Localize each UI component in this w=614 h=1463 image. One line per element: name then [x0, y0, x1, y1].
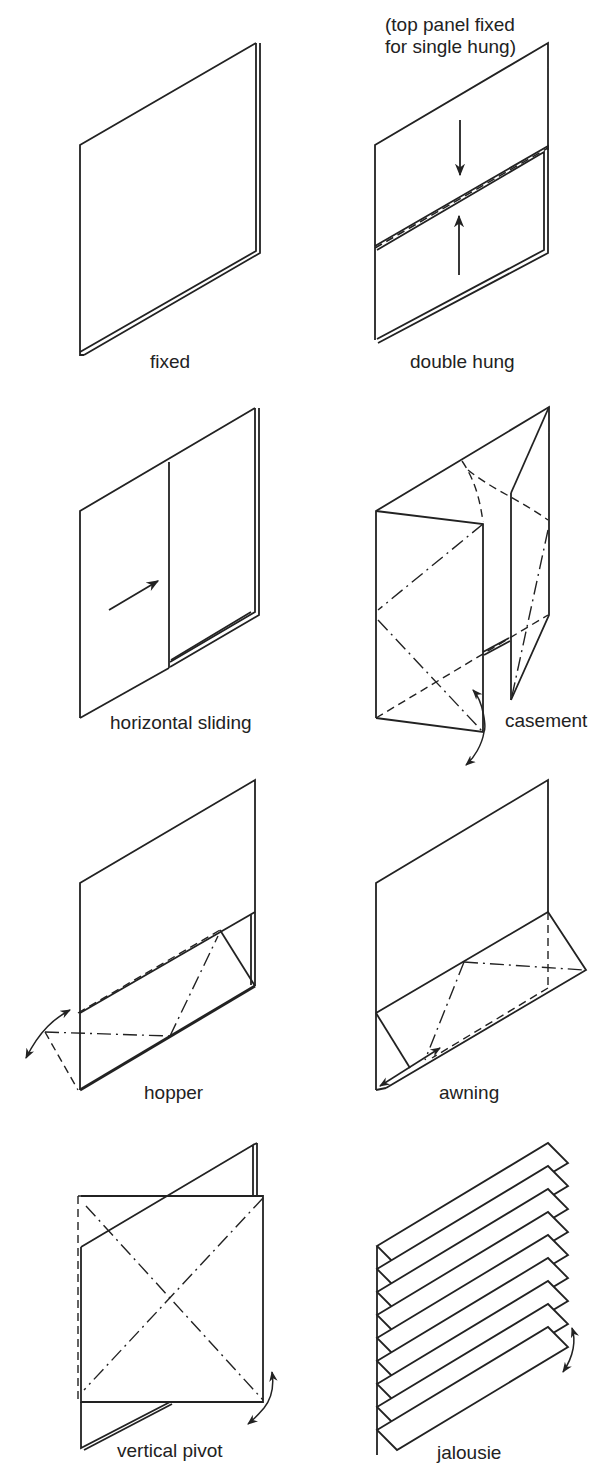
swing-arrow-icon	[248, 1372, 273, 1424]
awning-window-drawing	[376, 780, 586, 1090]
label-jalousie: jalousie	[437, 1443, 501, 1462]
label-hopper: hopper	[144, 1083, 203, 1102]
double-hung-window-drawing	[375, 43, 548, 343]
jalousie-slats	[377, 1143, 568, 1450]
label-fixed: fixed	[150, 352, 190, 371]
jalousie-window-drawing	[377, 1143, 574, 1455]
vertical-pivot-window-drawing	[78, 1143, 273, 1450]
note-line-2: for single hung)	[385, 36, 516, 58]
swing-arrow-icon	[466, 690, 485, 765]
fixed-window-drawing	[80, 43, 260, 355]
arrow-right-icon	[109, 581, 158, 610]
window-types-diagram	[0, 0, 614, 1463]
single-hung-note: (top panel fixed for single hung)	[385, 14, 516, 58]
note-line-1: (top panel fixed	[385, 14, 516, 36]
label-awning: awning	[439, 1083, 499, 1102]
label-double-hung: double hung	[410, 352, 515, 371]
swing-arrow-icon	[380, 1048, 440, 1086]
label-horizontal-sliding: horizontal sliding	[110, 713, 252, 732]
label-casement: casement	[505, 711, 587, 730]
horizontal-sliding-window-drawing	[80, 408, 259, 718]
label-vertical-pivot: vertical pivot	[117, 1441, 223, 1460]
hopper-window-drawing	[26, 780, 255, 1090]
swing-arrow-icon	[26, 1010, 70, 1058]
